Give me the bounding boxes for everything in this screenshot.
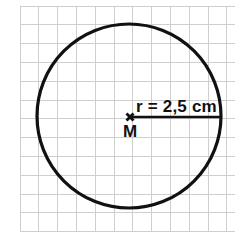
center-point-label: M [123,122,137,141]
radius-label: r = 2,5 cm [136,97,217,116]
diagram-canvas: r = 2,5 cm M [0,0,247,241]
circle-diagram-figure: r = 2,5 cm M [0,0,247,241]
